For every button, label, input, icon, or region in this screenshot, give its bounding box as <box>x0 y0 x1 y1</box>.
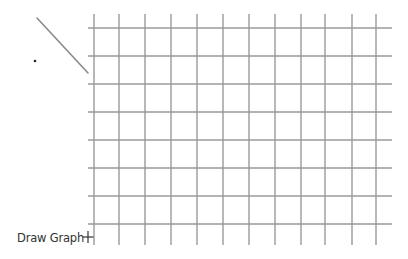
draw-graph-label: Draw Graph <box>17 231 84 245</box>
plus-icon <box>82 229 94 245</box>
draw-graph-button[interactable] <box>82 229 94 245</box>
drawn-point <box>34 60 37 63</box>
drawn-line <box>37 18 88 73</box>
graph-canvas[interactable] <box>0 0 408 259</box>
grid <box>88 14 392 245</box>
